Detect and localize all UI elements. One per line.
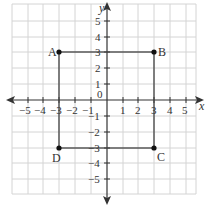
point-d-label: D (52, 151, 61, 165)
x-axis-label: x (198, 99, 205, 113)
svg-text:2: 2 (135, 104, 141, 116)
svg-text:2: 2 (95, 62, 101, 74)
svg-text:−2: −2 (88, 126, 100, 138)
svg-text:5: 5 (182, 104, 188, 116)
coordinate-plane: A B C D x y 0 −5 −4 −3 −2 −1 1 2 3 4 5 5… (0, 0, 212, 208)
svg-text:1: 1 (120, 104, 126, 116)
point-b (151, 49, 156, 54)
grid (12, 4, 196, 194)
point-a-label: A (48, 45, 57, 59)
point-c (151, 145, 156, 150)
svg-text:−1: −1 (88, 110, 100, 122)
svg-text:−4: −4 (88, 157, 100, 169)
svg-text:−2: −2 (66, 104, 78, 116)
svg-text:−3: −3 (88, 142, 100, 154)
svg-text:4: 4 (95, 31, 101, 43)
x-tick-labels: −5 −4 −3 −2 −1 1 2 3 4 5 (19, 104, 188, 116)
svg-text:5: 5 (95, 15, 101, 27)
svg-text:−4: −4 (34, 104, 46, 116)
svg-text:−5: −5 (88, 173, 100, 185)
svg-text:1: 1 (95, 78, 101, 90)
point-b-label: B (158, 45, 166, 59)
point-d (56, 145, 61, 150)
svg-text:−5: −5 (19, 104, 31, 116)
point-c-label: C (157, 150, 165, 164)
svg-text:3: 3 (151, 104, 157, 116)
svg-text:3: 3 (95, 46, 101, 58)
y-axis-label: y (98, 1, 105, 15)
point-a (56, 49, 61, 54)
svg-text:−3: −3 (50, 104, 62, 116)
svg-text:4: 4 (167, 104, 173, 116)
